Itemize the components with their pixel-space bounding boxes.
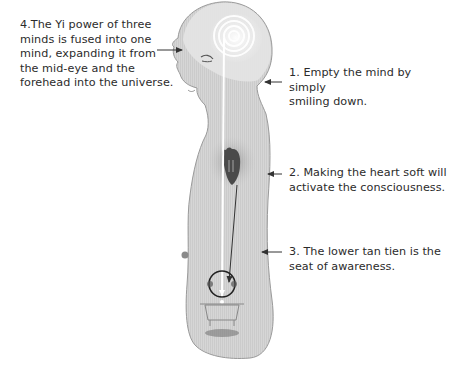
- label-line: 2. Making the heart soft will: [289, 166, 449, 181]
- label-line: activate the consciousness.: [289, 181, 449, 196]
- heart-center: [208, 136, 256, 188]
- label-lower-tan-tien: 3. The lower tan tien is the seat of awa…: [289, 245, 449, 274]
- label-line: 4.The Yi power of three: [20, 18, 185, 33]
- label-line: forehead into the universe.: [20, 76, 185, 91]
- back-dot: [182, 252, 189, 259]
- label-line: seat of awareness.: [289, 260, 449, 275]
- label-empty-mind: 1. Empty the mind by simply smiling down…: [289, 66, 449, 110]
- label-yi-power: 4.The Yi power of three minds is fused i…: [20, 18, 185, 91]
- smile-icon: [188, 90, 195, 92]
- label-line: mind, expanding it from: [20, 47, 185, 62]
- label-line: the mid-eye and the: [20, 62, 185, 77]
- label-line: minds is fused into one: [20, 33, 185, 48]
- label-line: 1. Empty the mind by simply: [289, 66, 449, 95]
- label-line: 3. The lower tan tien is the: [289, 245, 449, 260]
- label-heart-soft: 2. Making the heart soft will activate t…: [289, 166, 449, 195]
- label-line: smiling down.: [289, 95, 449, 110]
